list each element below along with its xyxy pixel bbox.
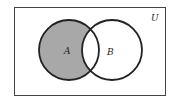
label-a: A (63, 46, 71, 56)
venn-diagram: A B U (0, 0, 176, 102)
label-b: B (106, 47, 114, 57)
label-universe: U (151, 13, 159, 23)
